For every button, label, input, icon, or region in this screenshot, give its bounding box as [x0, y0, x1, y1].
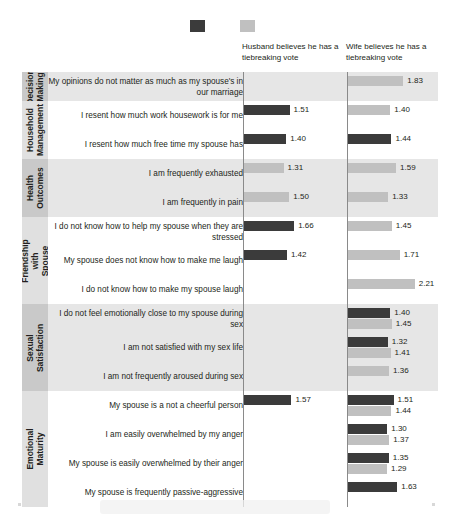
page-artifact [100, 500, 330, 514]
statement-axis: My opinions do not matter as much as my … [48, 42, 248, 495]
statement-label: I do not know how to make my spouse laug… [48, 275, 243, 304]
bar-husband-wife [244, 163, 284, 173]
statement-label: I am frequently exhausted [48, 159, 243, 188]
bar-value-label: 1.31 [288, 163, 304, 173]
bar-wife-wife [348, 366, 389, 376]
category-axis: Decision MakingHousehold ManagementHealt… [22, 42, 48, 495]
bar-wife-husband [348, 395, 394, 405]
category-label: Emotional Maturity [25, 428, 45, 469]
bar-husband-husband [244, 221, 294, 231]
category-label: Household Management [25, 104, 45, 156]
bar-value-label: 1.51 [294, 105, 310, 115]
bar-value-label: 1.59 [400, 163, 416, 173]
statement-label: I am frequently in pain [48, 188, 243, 217]
statement-label: I am not satisfied with my sex life [48, 333, 243, 362]
statement-label: My opinions do not matter as much as my … [48, 72, 243, 101]
bar-value-label: 1.51 [398, 395, 414, 405]
bar-husband-husband [244, 105, 290, 115]
column-header-wife: Wife believes he has a tiebreaking vote [346, 42, 444, 63]
bar-value-label: 1.44 [395, 406, 411, 416]
bar-value-label: 1.57 [295, 395, 311, 405]
statement-label: I am not frequently aroused during sex [48, 362, 243, 391]
statement-label: I am easily overwhelmed by my anger [48, 420, 243, 449]
legend-item-wife [240, 20, 262, 32]
bar-value-label: 1.63 [401, 482, 417, 492]
bar-wife-wife [348, 464, 387, 474]
category-band-emotional-maturity: Emotional Maturity [22, 391, 48, 507]
bar-value-label: 1.45 [396, 221, 412, 231]
bar-value-label: 1.40 [394, 105, 410, 115]
bar-wife-husband [348, 453, 389, 463]
crop-mark-left [18, 503, 21, 506]
bar-value-label: 1.45 [396, 319, 412, 329]
category-band-sexual-satisfaction: Sexual Satisfaction [22, 304, 48, 391]
chart-legend [0, 17, 451, 35]
bar-value-label: 1.33 [392, 192, 408, 202]
legend-item-husband [190, 20, 212, 32]
category-label: Health Outcomes [25, 167, 45, 209]
statement-label: My spouse is a not a cheerful person [48, 391, 243, 420]
bar-value-label: 1.36 [393, 366, 409, 376]
bar-value-label: 1.44 [395, 134, 411, 144]
plot-area: Decision MakingHousehold ManagementHealt… [22, 42, 438, 495]
bar-value-label: 1.42 [291, 250, 307, 260]
statement-label: I resent how much work housework is for … [48, 101, 243, 130]
bar-wife-husband [348, 482, 397, 492]
statement-label: My spouse does not know how to make me l… [48, 246, 243, 275]
bar-value-label: 1.50 [293, 192, 309, 202]
bar-value-label: 1.40 [290, 134, 306, 144]
bar-value-label: 1.41 [395, 348, 411, 358]
legend-swatch-wife-icon [240, 20, 255, 32]
category-label: Sexual Satisfaction [25, 323, 45, 371]
crop-mark-right [432, 503, 435, 506]
column-header-husband: Husband believes he has a tiebreaking vo… [242, 42, 340, 63]
chart-canvas: Decision MakingHousehold ManagementHealt… [0, 0, 451, 517]
bar-husband-husband [244, 395, 291, 405]
bar-wife-wife [348, 192, 388, 202]
category-band-household-management: Household Management [22, 101, 48, 159]
bar-husband-husband [244, 250, 287, 260]
bar-wife-wife [348, 435, 389, 445]
bar-value-label: 1.32 [392, 337, 408, 347]
bar-wife-husband [348, 308, 390, 318]
bar-value-label: 1.37 [393, 435, 409, 445]
bar-husband-husband [244, 134, 286, 144]
bar-wife-wife [348, 348, 391, 358]
statement-label: My spouse is easily overwhelmed by their… [48, 449, 243, 478]
bar-value-label: 1.40 [394, 308, 410, 318]
statement-label: I do not feel emotionally close to my sp… [48, 304, 243, 333]
bar-value-label: 1.71 [404, 250, 420, 260]
category-band-decision-making: Decision Making [22, 72, 48, 101]
bar-value-label: 1.29 [391, 464, 407, 474]
bar-value-label: 1.30 [391, 424, 407, 434]
bar-wife-wife [348, 319, 392, 329]
bar-husband-wife [244, 192, 289, 202]
category-band-health-outcomes: Health Outcomes [22, 159, 48, 217]
bar-wife-wife [348, 250, 400, 260]
category-label: Decision Making [25, 72, 45, 101]
bar-wife-husband [348, 424, 387, 434]
bar-value-label: 1.35 [393, 453, 409, 463]
legend-swatch-husband-icon [190, 20, 205, 32]
bar-wife-wife [348, 105, 390, 115]
bar-wife-wife [348, 163, 396, 173]
bar-wife-husband [348, 134, 391, 144]
bar-value-label: 1.83 [407, 76, 423, 86]
bar-value-label: 2.21 [419, 279, 435, 289]
bar-wife-wife [348, 221, 392, 231]
bar-wife-wife [348, 76, 403, 86]
bar-wife-wife [348, 406, 391, 416]
bar-value-label: 1.66 [298, 221, 314, 231]
category-band-friendship-with-spouse: Friendship with Spouse [22, 217, 48, 304]
bar-wife-husband [348, 337, 388, 347]
statement-label: I resent how much free time my spouse ha… [48, 130, 243, 159]
statement-label: I do not know how to help my spouse when… [48, 217, 243, 246]
bar-wife-wife [348, 279, 415, 289]
category-label: Friendship with Spouse [22, 239, 48, 282]
